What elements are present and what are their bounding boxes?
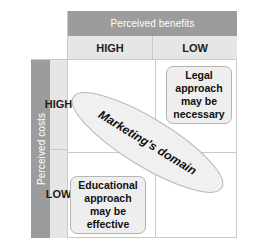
row-level-headers: HIGH LOW — [50, 60, 68, 238]
callout-educational-approach: Educational approach may be effective — [70, 176, 146, 234]
row-level-low-cell: LOW — [50, 150, 67, 239]
column-level-headers: HIGH LOW — [68, 36, 237, 60]
matrix-diagram: Perceived benefits HIGH LOW Perceived co… — [0, 0, 253, 252]
column-level-high: HIGH — [68, 36, 153, 59]
matrix-corner-blank-cell — [31, 11, 68, 60]
row-axis-title: Perceived costs — [35, 113, 46, 185]
callout-legal-approach: Legal approach may be necessary — [166, 66, 232, 124]
column-axis-title: Perceived benefits — [68, 11, 237, 36]
row-axis-title-band: Perceived costs — [31, 60, 50, 238]
quadrant-horizontal-divider — [68, 152, 237, 153]
row-level-high-cell: HIGH — [50, 60, 67, 150]
quadrant-vertical-divider — [155, 60, 156, 238]
column-level-low: LOW — [153, 36, 237, 59]
